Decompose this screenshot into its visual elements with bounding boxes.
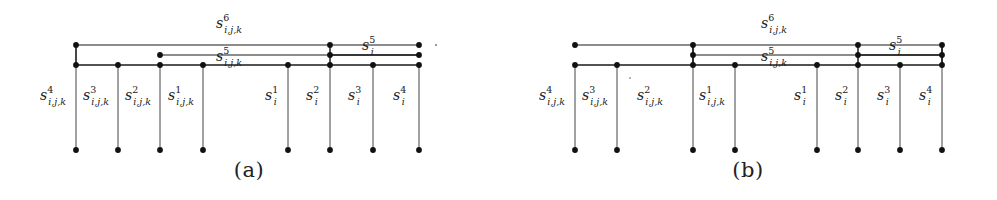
panel-a-s6-label: s6i,j,k (216, 16, 247, 30)
panel-a-s5-ijk-label: s5i,j,k (216, 49, 247, 63)
panel-a-s1-ijk-label: s1i,j,k (168, 88, 199, 102)
panel-a-s1-i-label: s1i (265, 88, 281, 102)
figure-container: s6i,j,k s5i,j,k s5i s4i,j,k s3i,j,k s2i,… (0, 0, 997, 200)
panel-b-s3-ijk-label: s3i,j,k (582, 88, 613, 102)
panel-b-s1-ijk-label: s1i,j,k (699, 88, 730, 102)
panel-b-s1-i-label: s1i (794, 88, 810, 102)
panel-b-s2-i-label: s2i (835, 88, 851, 102)
panel-a-s3-i-label: s3i (348, 88, 364, 102)
speck-b (629, 77, 631, 79)
panel-b-s4-ijk-label: s4i,j,k (539, 88, 570, 102)
panel-b-s5-i-label: s5i (889, 38, 905, 52)
panel-b-s2-ijk-label: s2i,j,k (637, 88, 668, 102)
panel-b: s6i,j,k s5i,j,k s5i s4i,j,k s3i,j,k s2i,… (499, 0, 997, 200)
panel-b-s3-i-label: s3i (877, 88, 893, 102)
panel-a: s6i,j,k s5i,j,k s5i s4i,j,k s3i,j,k s2i,… (0, 0, 498, 200)
speck-a (435, 44, 437, 46)
panel-a-s2-i-label: s2i (306, 88, 322, 102)
panel-b-s5-ijk-label: s5i,j,k (761, 49, 792, 63)
panel-a-drawing (0, 0, 498, 170)
panel-a-s5-i-label: s5i (362, 38, 378, 52)
panel-a-s2-ijk-label: s2i,j,k (125, 88, 156, 102)
panel-b-caption: (b) (499, 158, 997, 182)
panel-a-s4-i-label: s4i (393, 88, 409, 102)
column-stems-a (76, 65, 419, 150)
panel-b-s4-i-label: s4i (919, 88, 935, 102)
panel-b-s6-label: s6i,j,k (761, 16, 792, 30)
panel-b-drawing (499, 0, 997, 170)
panel-a-s3-ijk-label: s3i,j,k (83, 88, 114, 102)
panel-a-s4-ijk-label: s4i,j,k (40, 88, 71, 102)
panel-a-caption: (a) (0, 158, 498, 182)
